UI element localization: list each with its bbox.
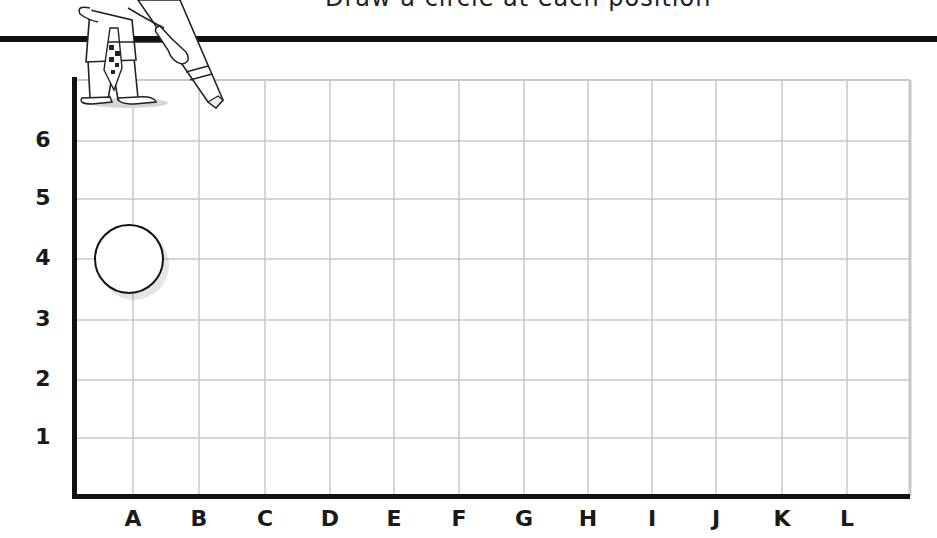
column-label-g: G bbox=[509, 506, 539, 531]
column-label-b: B bbox=[184, 506, 214, 531]
row-label-4: 4 bbox=[28, 245, 58, 270]
row-label-2: 2 bbox=[28, 366, 58, 391]
column-label-a: A bbox=[118, 506, 148, 531]
column-label-k: K bbox=[767, 506, 797, 531]
column-label-d: D bbox=[315, 506, 345, 531]
boy-with-pencil-illustration bbox=[68, 0, 228, 115]
row-label-3: 3 bbox=[28, 306, 58, 331]
column-label-h: H bbox=[573, 506, 603, 531]
column-label-e: E bbox=[379, 506, 409, 531]
x-axis-line bbox=[72, 494, 910, 499]
row-label-6: 6 bbox=[28, 127, 58, 152]
circle-at-A4 bbox=[94, 224, 164, 294]
y-axis-line bbox=[72, 77, 77, 499]
row-label-5: 5 bbox=[28, 185, 58, 210]
row-label-1: 1 bbox=[28, 424, 58, 449]
column-label-f: F bbox=[444, 506, 474, 531]
column-label-l: L bbox=[832, 506, 862, 531]
column-label-i: I bbox=[637, 506, 667, 531]
column-label-c: C bbox=[250, 506, 280, 531]
column-label-j: J bbox=[701, 506, 731, 531]
